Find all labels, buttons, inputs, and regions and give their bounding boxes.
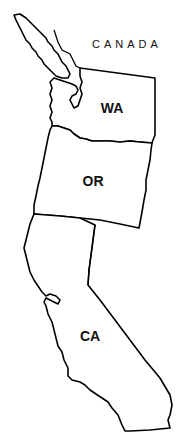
label-oregon: OR <box>83 173 104 189</box>
label-canada: CANADA <box>92 38 162 50</box>
state-california <box>24 214 172 431</box>
vancouver-island <box>14 14 70 78</box>
label-washington: WA <box>101 100 124 116</box>
west-coast-map: CANADA WA OR CA <box>0 0 188 437</box>
label-california: CA <box>80 328 100 344</box>
